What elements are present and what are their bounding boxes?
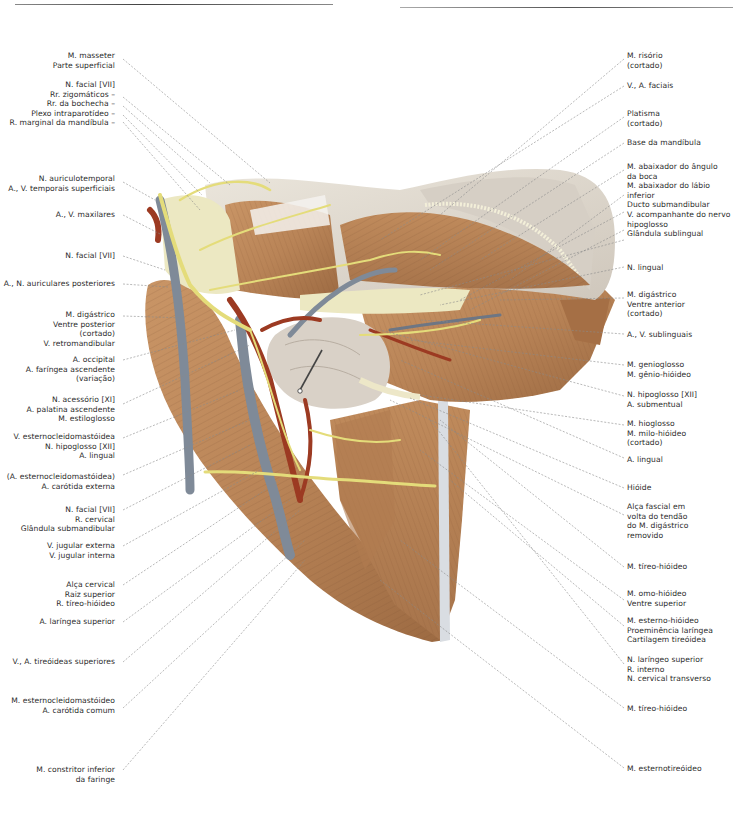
label-line: Plexo intraparotídeo – (10, 109, 115, 119)
label-auriculotemporal: N. auriculotemporalA., V. temporais supe… (8, 174, 115, 193)
label-facial-nerve: N. facial [VII] (65, 251, 115, 261)
label-line: M. tíreo-hióideo (627, 704, 687, 714)
label-line: da boca (627, 172, 730, 182)
label-line: M. abaixador do lábio (627, 181, 730, 191)
label-thyrohyoid-2: M. tíreo-hióideo (627, 704, 687, 714)
label-line: Glândula submandibular (21, 524, 115, 534)
label-line: N. auriculotemporal (8, 174, 115, 184)
label-line: A., V. temporais superficiais (8, 184, 115, 194)
label-posterior-auricular: A., N. auriculares posteriores (4, 279, 115, 289)
label-line: Parte superficial (53, 61, 115, 71)
label-line: N. lingual (627, 263, 663, 273)
label-line: A. laríngea superior (39, 617, 115, 627)
label-line: R. marginal da mandíbula – (10, 118, 115, 128)
label-line: V. jugular interna (47, 551, 115, 561)
label-thyrohyoid-1: M. tíreo-hióideo (627, 562, 687, 572)
label-line: N. facial [VII] (21, 505, 115, 515)
label-external-carotid: (A. esternocleidomastóidea)A. carótida e… (7, 472, 115, 491)
label-line: M. digástrico (44, 310, 115, 320)
label-line: M. masseter (53, 51, 115, 61)
label-line: A. palatina ascendente (27, 405, 115, 415)
label-line: N. hipoglosso [XII] (627, 390, 697, 400)
label-line: N. cervical transverso (627, 674, 711, 684)
label-line: Ventre anterior (627, 300, 685, 310)
label-line: Cartilagem tireóidea (627, 635, 713, 645)
label-line: N. laríngeo superior (627, 655, 711, 665)
label-line: R. cervical (21, 515, 115, 525)
label-omohyoid: M. omo-hióideoVentre superior (627, 589, 686, 608)
label-maxillary-vessels: A., V. maxilares (56, 210, 115, 220)
label-line: A., V. maxilares (56, 210, 115, 220)
label-line: Base da mandíbula (627, 138, 701, 148)
label-jugular-veins: V. jugular externaV. jugular interna (47, 541, 115, 560)
label-line: (cortado) (627, 309, 685, 319)
label-line: Proeminência laríngea (627, 626, 713, 636)
label-lingual-nerve: N. lingual (627, 263, 663, 273)
label-line: A. faríngea ascendente (26, 365, 115, 375)
label-occipital-artery: A. occipitalA. faríngea ascendente(varia… (26, 355, 115, 384)
label-digastric-anterior: M. digástricoVentre anterior(cortado) (627, 290, 685, 319)
label-line: A., N. auriculares posteriores (4, 279, 115, 289)
label-accessory-nerve: N. acessório [XI]A. palatina ascendenteM… (27, 395, 115, 424)
label-ansa-cervicalis: Alça cervicalRaiz superiorR. tíreo-hióid… (56, 580, 115, 609)
label-line: Raiz superior (56, 590, 115, 600)
label-line: A. carótida externa (7, 482, 115, 492)
label-facial-vessels: V., A. faciais (627, 81, 673, 91)
label-inferior-constrictor: M. constritor inferiorda faringe (36, 765, 115, 784)
label-line: A. occipital (26, 355, 115, 365)
label-line: M. omo-hióideo (627, 589, 686, 599)
label-genioglossus: M. genioglossoM. gênio-hióideo (627, 360, 691, 379)
label-hyoglossus-mylohyoid: M. hioglossoM. milo-hióideo(cortado) (627, 419, 686, 448)
label-line: M. milo-hióideo (627, 429, 686, 439)
label-line: V., A. faciais (627, 81, 673, 91)
label-line: Ducto submandibular (627, 200, 730, 210)
label-line: M. genioglosso (627, 360, 691, 370)
label-cervical-branch: N. facial [VII]R. cervicalGlândula subma… (21, 505, 115, 534)
label-sternothyroid: M. esternotireóideo (627, 764, 702, 774)
label-line: (A. esternocleidomastóidea) (7, 472, 115, 482)
label-line: N. facial [VII] (10, 80, 115, 90)
label-line: R. tíreo-hióideo (56, 599, 115, 609)
label-line: A. carótida comum (11, 706, 115, 716)
label-facial-nerve-branches: N. facial [VII]Rr. zigomáticos –Rr. da b… (10, 80, 115, 128)
label-line: A. lingual (627, 455, 663, 465)
label-line: M. estiloglosso (27, 414, 115, 424)
label-line: (variação) (26, 374, 115, 384)
label-line: V., A. tireóideas superiores (13, 657, 115, 667)
label-line: Alça cervical (56, 580, 115, 590)
label-depressors-sublingual: M. abaixador do ânguloda bocaM. abaixado… (627, 162, 730, 239)
label-line: A. lingual (14, 451, 115, 461)
label-superior-thyroid: V., A. tireóideas superiores (13, 657, 115, 667)
label-platysma: Platisma(cortado) (627, 109, 662, 128)
label-line: M. abaixador do ângulo (627, 162, 730, 172)
label-hyoid: Hióide (627, 483, 651, 493)
label-line: M. esternotireóideo (627, 764, 702, 774)
label-line: inferior (627, 191, 730, 201)
label-mandible-base: Base da mandíbula (627, 138, 701, 148)
thyroid-cartilage-edge (438, 400, 450, 642)
label-fascial-loop: Alça fascial emvolta do tendãodo M. digá… (627, 502, 688, 540)
label-scm-common-carotid: M. esternocleidomastóideoA. carótida com… (11, 696, 115, 715)
label-line: N. facial [VII] (65, 251, 115, 261)
label-line: Glândula sublingual (627, 229, 730, 239)
label-line: Platisma (627, 109, 662, 119)
label-line: removido (627, 531, 688, 541)
label-line: N. hipoglosso [XII] (14, 442, 115, 452)
label-line: A., V. sublinguais (627, 330, 692, 340)
label-line: M. esterno-hióideo (627, 616, 713, 626)
label-line: Alça fascial em (627, 502, 688, 512)
label-sternohyoid: M. esterno-hióideoProeminência laríngeaC… (627, 616, 713, 645)
label-line: M. digástrico (627, 290, 685, 300)
label-line: Rr. zigomáticos – (10, 90, 115, 100)
label-line: Ventre superior (627, 599, 686, 609)
label-line: volta do tendão (627, 512, 688, 522)
label-line: M. hioglosso (627, 419, 686, 429)
label-line: V. esternocleidomastóidea (14, 432, 115, 442)
label-line: V. acompanhante do nervo (627, 210, 730, 220)
label-superior-laryngeal-artery: A. laríngea superior (39, 617, 115, 627)
label-lingual-artery: A. lingual (627, 455, 663, 465)
label-line: M. tíreo-hióideo (627, 562, 687, 572)
label-risorius: M. risório(cortado) (627, 51, 663, 70)
label-line: Hióide (627, 483, 651, 493)
label-line: V. retromandibular (44, 339, 115, 349)
